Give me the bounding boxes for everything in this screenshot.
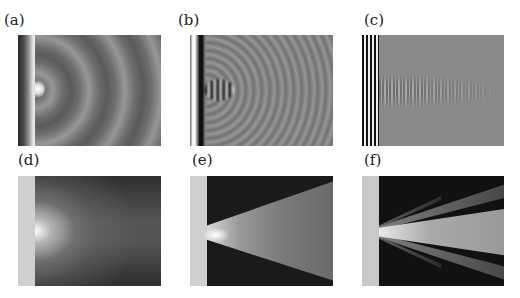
panel-d-intensity — [18, 176, 161, 286]
panel-c-wave-field — [362, 35, 504, 146]
panel-label-f: (f) — [364, 153, 381, 168]
panel-label-a: (a) — [4, 13, 25, 28]
panel-label-b: (b) — [178, 13, 199, 28]
source-strip — [362, 35, 379, 146]
panel-f-intensity — [362, 176, 504, 286]
intensity-image — [207, 176, 333, 286]
panel-a-wave-field — [18, 35, 161, 146]
wave-field-image — [379, 35, 504, 146]
panel-label-d: (d) — [18, 153, 39, 168]
intensity-image — [35, 176, 161, 286]
wave-field-image — [35, 35, 161, 146]
panel-e-intensity — [190, 176, 333, 286]
source-strip — [362, 176, 379, 286]
wave-field-image — [206, 35, 333, 146]
panel-b-wave-field — [190, 35, 333, 146]
panel-label-c: (c) — [364, 13, 384, 28]
intensity-image — [379, 176, 504, 286]
panel-label-e: (e) — [192, 153, 213, 168]
source-strip — [18, 176, 35, 286]
